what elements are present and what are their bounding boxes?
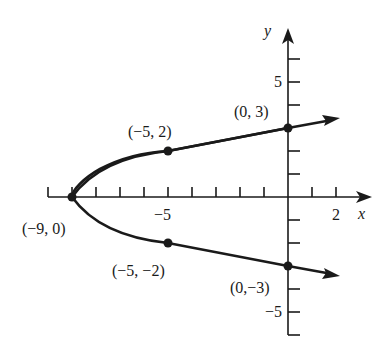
y-tick-label-5: 5 [274,73,282,90]
point-label-neg5-neg2: (−5, −2) [112,262,165,280]
point-label-neg5-2: (−5, 2) [128,123,172,141]
point-vertex [68,193,77,202]
x-tick-label-neg5: −5 [154,206,171,223]
parabola-lower-branch [72,197,332,274]
point-label-0-neg3: (0,−3) [230,279,270,297]
x-axis-ticks [48,187,336,197]
point-neg5-2 [164,147,173,156]
x-tick-label-2: 2 [332,206,340,223]
point-0-neg3 [284,262,293,271]
parabola-upper-branch [72,120,332,197]
y-axis [288,40,300,335]
point-neg5-neg2 [164,239,173,248]
point-0-3 [284,124,293,133]
y-tick-label-neg5: −5 [265,303,282,320]
y-axis-label: y [262,22,272,40]
parabola-curve [72,128,288,197]
point-label-0-3: (0, 3) [234,103,269,121]
x-axis-label: x [357,205,365,222]
point-label-vertex: (−9, 0) [22,220,66,238]
x-axis [48,187,362,197]
parabola-chart: y x 5 −5 −5 2 (−9, 0) (−5, 2) (0, 3) (−5… [0,0,390,352]
